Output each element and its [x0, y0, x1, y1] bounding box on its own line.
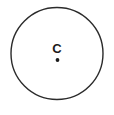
center-label: C: [0, 42, 114, 55]
circle-figure-svg: [0, 0, 114, 115]
center-label-text: C: [52, 41, 61, 56]
figure-canvas: C: [0, 0, 114, 115]
center-dot: [56, 58, 60, 62]
figure-background: [0, 0, 114, 115]
